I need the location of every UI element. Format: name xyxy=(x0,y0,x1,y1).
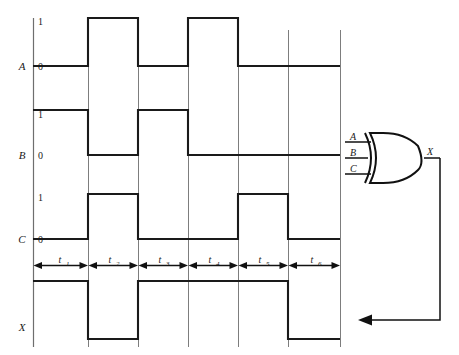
interval-label-t3: t xyxy=(159,254,162,265)
level-label-B-high: 1 xyxy=(38,109,43,120)
interval-sub-t3: 3 xyxy=(165,260,170,268)
timing-diagram-figure: A B C X 1 0 1 0 1 0 t 1 t xyxy=(0,0,459,355)
waveform-X xyxy=(33,281,340,339)
interval-markers: t 1 t 2 t 3 xyxy=(34,254,341,269)
interval-gridlines xyxy=(89,18,341,347)
level-label-C-low: 0 xyxy=(38,234,43,245)
interval-sub-t5: 5 xyxy=(266,260,270,268)
level-label-B-low: 0 xyxy=(38,150,43,161)
signal-label-B: B xyxy=(19,149,26,161)
signal-label-A: A xyxy=(18,60,26,72)
xor-gate-body xyxy=(370,133,422,183)
gate-input-label-B: B xyxy=(350,147,356,158)
interval-marker-t2: t 2 xyxy=(89,254,139,269)
interval-marker-t3: t 3 xyxy=(139,254,189,269)
interval-label-t6: t xyxy=(311,254,314,265)
interval-sub-t2: 2 xyxy=(116,260,120,268)
gate-output-label-X: X xyxy=(426,146,434,157)
gate-input-label-A: A xyxy=(349,131,357,142)
interval-label-t5: t xyxy=(259,254,262,265)
interval-marker-t4: t 4 xyxy=(189,254,239,269)
waveform-A xyxy=(33,18,340,66)
interval-sub-t6: 6 xyxy=(318,260,322,268)
feedback-arrowhead xyxy=(358,315,372,326)
interval-label-t2: t xyxy=(109,254,112,265)
interval-marker-t1: t 1 xyxy=(34,254,89,269)
interval-sub-t1: 1 xyxy=(66,260,70,268)
xor-gate: A B C X xyxy=(345,131,440,183)
waveform-C xyxy=(33,194,340,239)
waveform-B xyxy=(33,110,340,155)
level-label-A-low: 0 xyxy=(38,61,43,72)
interval-marker-t6: t 6 xyxy=(289,254,341,269)
signal-label-X: X xyxy=(18,321,27,333)
interval-label-t4: t xyxy=(209,254,212,265)
gate-input-label-C: C xyxy=(350,163,357,174)
diagram-canvas: A B C X 1 0 1 0 1 0 t 1 t xyxy=(0,0,459,355)
interval-label-t1: t xyxy=(59,254,62,265)
interval-marker-t5: t 5 xyxy=(239,254,289,269)
interval-sub-t4: 4 xyxy=(216,260,220,268)
signal-label-C: C xyxy=(18,233,26,245)
level-label-C-high: 1 xyxy=(38,192,43,203)
level-label-A-high: 1 xyxy=(38,16,43,27)
